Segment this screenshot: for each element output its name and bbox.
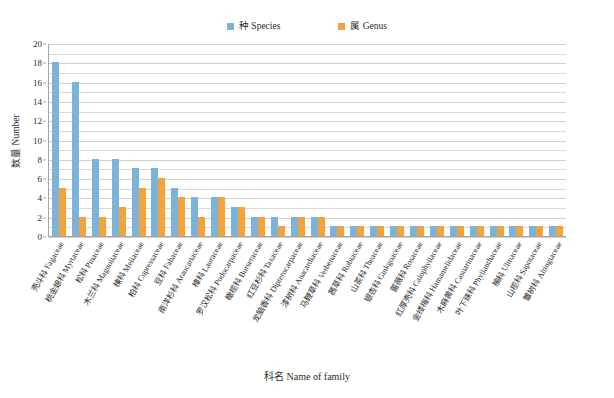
bar-group[interactable] (228, 44, 248, 236)
bar-species[interactable] (151, 168, 158, 236)
bar-group[interactable] (327, 44, 347, 236)
bar-species[interactable] (370, 226, 377, 236)
bar-group[interactable] (347, 44, 367, 236)
y-tick-mark (43, 44, 46, 45)
bar-group[interactable] (427, 44, 447, 236)
bar-species[interactable] (450, 226, 457, 236)
bar-genus[interactable] (79, 217, 86, 236)
bar-genus[interactable] (119, 207, 126, 236)
bar-species[interactable] (251, 217, 258, 236)
bar-species[interactable] (430, 226, 437, 236)
bar-species[interactable] (291, 217, 298, 236)
bar-genus[interactable] (417, 226, 424, 236)
bar-group[interactable] (69, 44, 89, 236)
bar-species[interactable] (490, 226, 497, 236)
bar-genus[interactable] (59, 188, 66, 236)
bar-group[interactable] (487, 44, 507, 236)
bar-species[interactable] (92, 159, 99, 236)
bar-group[interactable] (546, 44, 566, 236)
bar-genus[interactable] (377, 226, 384, 236)
y-tick-mark (43, 63, 46, 64)
bar-group[interactable] (89, 44, 109, 236)
bar-group[interactable] (248, 44, 268, 236)
bar-group[interactable] (447, 44, 467, 236)
legend-label-genus: 属 Genus (350, 21, 387, 31)
bar-genus[interactable] (99, 217, 106, 236)
x-tick-label: 马鞭草科 Verbenaceae (327, 238, 347, 364)
bar-species[interactable] (350, 226, 357, 236)
bar-species[interactable] (330, 226, 337, 236)
y-tick-mark (43, 198, 46, 199)
bar-species[interactable] (410, 226, 417, 236)
bar-species[interactable] (390, 226, 397, 236)
bar-genus[interactable] (536, 226, 543, 236)
bar-group[interactable] (467, 44, 487, 236)
bar-genus[interactable] (397, 226, 404, 236)
bar-species[interactable] (52, 62, 59, 236)
x-axis-title: 科名 Name of family (0, 368, 614, 383)
bar-group[interactable] (506, 44, 526, 236)
bar-group[interactable] (148, 44, 168, 236)
bar-species[interactable] (231, 207, 238, 236)
y-tick-label: 2 (38, 213, 43, 222)
bar-genus[interactable] (218, 197, 225, 236)
bar-group[interactable] (129, 44, 149, 236)
bar-group[interactable] (308, 44, 328, 236)
bar-species[interactable] (171, 188, 178, 236)
y-tick-label: 10 (33, 136, 42, 145)
y-tick-label: 18 (33, 59, 42, 68)
bar-group[interactable] (168, 44, 188, 236)
plot-area (48, 44, 566, 237)
bar-group[interactable] (367, 44, 387, 236)
bar-species[interactable] (191, 197, 198, 236)
bar-genus[interactable] (437, 226, 444, 236)
bar-group[interactable] (49, 44, 69, 236)
y-tick-label: 16 (33, 78, 42, 87)
bar-species[interactable] (112, 159, 119, 236)
bar-genus[interactable] (139, 188, 146, 236)
y-tick-label: 4 (38, 194, 43, 203)
bar-genus[interactable] (158, 178, 165, 236)
bar-species[interactable] (132, 168, 139, 236)
bar-genus[interactable] (556, 226, 563, 236)
bar-species[interactable] (549, 226, 556, 236)
x-tick-label: 蕈树科 Altingiaceae (546, 238, 566, 364)
bar-group[interactable] (188, 44, 208, 236)
bar-genus[interactable] (337, 226, 344, 236)
bar-genus[interactable] (258, 217, 265, 236)
bar-species[interactable] (509, 226, 516, 236)
bar-species[interactable] (529, 226, 536, 236)
bar-genus[interactable] (198, 217, 205, 236)
bar-species[interactable] (72, 82, 79, 236)
bar-genus[interactable] (298, 217, 305, 236)
bar-species[interactable] (271, 217, 278, 236)
bar-genus[interactable] (477, 226, 484, 236)
bar-genus[interactable] (178, 197, 185, 236)
bar-genus[interactable] (238, 207, 245, 236)
y-tick-mark (43, 179, 46, 180)
bar-genus[interactable] (497, 226, 504, 236)
bar-genus[interactable] (357, 226, 364, 236)
bar-chart: 种 Species 属 Genus 数量 Number 024681012141… (0, 0, 614, 398)
y-tick-mark (43, 237, 46, 238)
bar-genus[interactable] (278, 226, 285, 236)
legend-entry-genus[interactable]: 属 Genus (338, 21, 387, 31)
legend-label-species: 种 Species (239, 21, 280, 31)
bar-group[interactable] (208, 44, 228, 236)
bar-group[interactable] (268, 44, 288, 236)
bar-species[interactable] (311, 217, 318, 236)
bar-group[interactable] (288, 44, 308, 236)
bar-group[interactable] (407, 44, 427, 236)
bar-group[interactable] (526, 44, 546, 236)
bar-genus[interactable] (318, 217, 325, 236)
bar-group[interactable] (109, 44, 129, 236)
bar-genus[interactable] (457, 226, 464, 236)
legend-swatch-genus (338, 23, 345, 30)
bar-species[interactable] (470, 226, 477, 236)
y-tick-mark (43, 101, 46, 102)
bar-species[interactable] (211, 197, 218, 236)
bar-group[interactable] (387, 44, 407, 236)
bar-genus[interactable] (516, 226, 523, 236)
legend-entry-species[interactable]: 种 Species (227, 21, 280, 31)
bar-series-container (49, 44, 566, 236)
